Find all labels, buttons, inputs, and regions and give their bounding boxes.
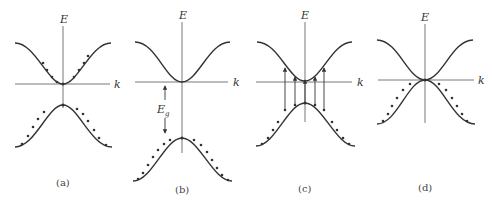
panel-b: E g E k (b): [133, 9, 240, 195]
valence-band: [377, 80, 475, 124]
panel-caption: (b): [175, 184, 189, 195]
k-label: k: [478, 74, 485, 87]
panel-c: E k (c): [256, 9, 364, 194]
band-gap-subscript: g: [165, 110, 170, 118]
energy-label: E: [420, 11, 429, 24]
k-label: k: [114, 78, 121, 91]
panel-caption: (c): [298, 183, 312, 194]
valence-band: [15, 105, 112, 147]
panel-a: E k (a): [15, 13, 121, 188]
panel-caption: (d): [418, 182, 432, 193]
valence-band: [256, 103, 355, 146]
conduction-band: [135, 42, 230, 82]
k-label: k: [233, 76, 240, 89]
hole-dots: [137, 137, 230, 182]
k-label: k: [357, 76, 364, 89]
conduction-band: [257, 42, 352, 81]
band-gap-label: E: [156, 103, 165, 116]
panel-caption: (a): [56, 177, 70, 188]
energy-label: E: [300, 9, 309, 22]
energy-label: E: [178, 9, 187, 22]
panel-d: E k (d): [377, 11, 485, 193]
hole-dots: [21, 104, 108, 147]
hole-dots: [261, 102, 351, 146]
electron-dots: [42, 55, 90, 86]
band-structure-figure: E k (a) E g E k (b): [0, 0, 492, 205]
energy-label: E: [59, 13, 68, 26]
valence-band: [133, 138, 232, 181]
